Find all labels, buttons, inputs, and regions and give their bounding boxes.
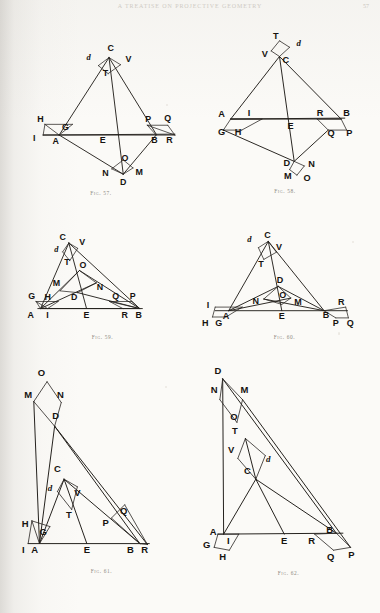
svg-text:P: P: [145, 114, 151, 124]
svg-text:M: M: [241, 384, 249, 395]
figure-61-caption: Fig. 61.: [14, 568, 189, 574]
figure-57-labels: C d V T H G I A E P Q B R O N M D: [33, 43, 173, 187]
svg-text:Q: Q: [327, 128, 334, 138]
svg-text:R: R: [141, 544, 148, 555]
svg-text:P: P: [103, 517, 109, 528]
svg-text:A: A: [28, 310, 35, 320]
page-number: 57: [363, 3, 369, 9]
svg-text:d: d: [297, 38, 302, 48]
svg-text:D: D: [52, 410, 59, 421]
figure-62-labels: D N M O T V d C A B G I E R H Q P: [203, 365, 355, 563]
svg-text:D: D: [120, 177, 127, 187]
svg-text:I: I: [33, 133, 35, 143]
figure-58-labels: T d V C A I E R B G H Q P D N M O: [218, 31, 353, 184]
svg-text:C: C: [244, 465, 251, 476]
figure-61-labels: O M N D C d V T Q P H G I A E B R: [22, 367, 148, 555]
figure-59: C V d T O M N G H D Q P A I E R B Fig. 5…: [10, 220, 195, 350]
svg-text:P: P: [348, 549, 354, 560]
svg-text:R: R: [338, 297, 345, 307]
svg-text:E: E: [281, 535, 287, 546]
svg-text:M: M: [53, 278, 60, 288]
svg-text:I: I: [46, 310, 48, 320]
svg-text:M: M: [136, 167, 143, 177]
svg-text:B: B: [151, 135, 157, 145]
svg-text:N: N: [308, 159, 315, 169]
figure-58: T d V C A I E R B G H Q P D N M O Fig. 5…: [190, 16, 380, 212]
svg-text:H: H: [202, 318, 209, 328]
svg-text:Q: Q: [120, 505, 127, 516]
svg-text:d: d: [247, 234, 252, 244]
svg-text:I: I: [227, 535, 230, 546]
svg-text:C: C: [264, 230, 271, 240]
svg-text:d: d: [86, 52, 91, 62]
svg-text:Q: Q: [112, 291, 119, 301]
svg-text:T: T: [103, 68, 109, 78]
figure-57-drawing: C d V T H G I A E P Q B R O N M D: [6, 22, 196, 200]
figure-59-caption: Fig. 59.: [10, 334, 195, 340]
figure-58-drawing: T d V C A I E R B G H Q P D N M O: [190, 16, 380, 200]
svg-text:T: T: [273, 31, 279, 41]
svg-text:T: T: [232, 425, 238, 436]
svg-text:V: V: [262, 49, 269, 59]
svg-text:D: D: [215, 365, 222, 376]
svg-text:E: E: [84, 544, 90, 555]
svg-text:H: H: [235, 127, 242, 137]
svg-text:I: I: [248, 108, 251, 118]
figure-60-drawing: d C V T D O N M I R A E B H G P Q: [192, 218, 377, 344]
figure-60: d C V T D O N M I R A E B H G P Q Fig. 6…: [192, 218, 377, 350]
svg-text:O: O: [122, 153, 129, 163]
svg-text:A: A: [31, 544, 38, 555]
svg-text:B: B: [136, 310, 142, 320]
svg-text:B: B: [326, 524, 333, 535]
figure-57: C d V T H G I A E P Q B R O N M D Fig. 5…: [6, 22, 196, 212]
paper-speck: [352, 241, 354, 243]
svg-text:V: V: [126, 54, 132, 64]
svg-text:N: N: [102, 168, 108, 178]
svg-text:T: T: [258, 259, 264, 269]
figure-59-lines: [36, 243, 142, 309]
svg-text:I: I: [22, 544, 25, 555]
paper-speck: [166, 104, 168, 106]
figure-60-caption: Fig. 60.: [192, 334, 377, 340]
svg-text:I: I: [207, 300, 210, 310]
svg-text:G: G: [28, 291, 35, 301]
figure-58-caption: Fig. 58.: [190, 188, 380, 194]
svg-text:B: B: [343, 108, 350, 118]
svg-text:R: R: [308, 535, 315, 546]
svg-text:D: D: [277, 275, 284, 285]
svg-text:E: E: [287, 121, 293, 131]
svg-text:A: A: [218, 109, 225, 119]
svg-text:C: C: [54, 463, 61, 474]
figure-61-lines: [28, 382, 149, 545]
figure-59-drawing: C V d T O M N G H D Q P A I E R B: [10, 220, 195, 344]
svg-text:G: G: [215, 318, 222, 328]
svg-text:Q: Q: [164, 113, 171, 123]
svg-text:G: G: [218, 127, 225, 137]
svg-text:T: T: [66, 509, 72, 520]
svg-text:O: O: [38, 367, 45, 378]
svg-text:D: D: [284, 158, 291, 168]
svg-text:G: G: [40, 526, 47, 537]
svg-text:O: O: [80, 260, 87, 270]
svg-text:P: P: [333, 318, 339, 328]
svg-text:d: d: [54, 245, 59, 254]
figure-57-caption: Fig. 57.: [6, 190, 196, 196]
svg-text:H: H: [22, 518, 29, 529]
svg-text:N: N: [252, 296, 259, 306]
svg-text:d: d: [48, 483, 53, 493]
svg-text:E: E: [279, 311, 285, 321]
svg-text:N: N: [97, 282, 103, 292]
figure-62-caption: Fig. 62.: [196, 570, 380, 576]
svg-text:N: N: [57, 389, 64, 400]
svg-text:C: C: [108, 43, 115, 53]
svg-text:M: M: [284, 171, 292, 181]
running-head: A TREATISE ON PROJECTIVE GEOMETRY: [0, 3, 380, 9]
svg-text:D: D: [71, 292, 78, 302]
svg-text:B: B: [323, 310, 330, 320]
svg-text:R: R: [166, 135, 173, 145]
svg-text:M: M: [24, 389, 32, 400]
svg-text:G: G: [203, 539, 210, 550]
figure-62-drawing: D N M O T V d C A B G I E R H Q P: [196, 358, 380, 590]
svg-text:Q: Q: [327, 551, 334, 562]
svg-text:V: V: [276, 242, 282, 252]
